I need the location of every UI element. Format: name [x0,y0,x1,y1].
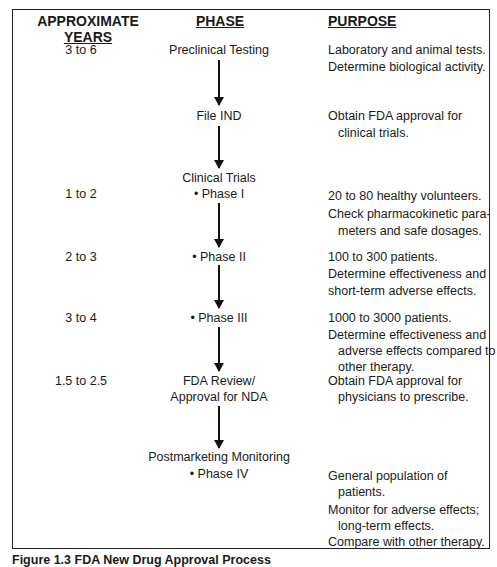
arrow-down-icon [218,126,220,168]
header-purpose: PURPOSE [328,13,396,29]
purpose-phase3-2: Determine effectiveness and [328,327,486,343]
header-years: APPROXIMATE YEARS [18,13,158,45]
purpose-phase2-3: short-term adverse effects. [328,283,476,299]
purpose-fda-1: Obtain FDA approval for [328,373,462,389]
phase-fda-review-1: FDA Review/ [119,373,319,389]
purpose-phase4-3: Monitor for adverse effects; [328,502,479,518]
header-phase: PHASE [160,13,280,29]
header-years-line1: APPROXIMATE [18,13,158,29]
purpose-phase2-1: 100 to 300 patients. [328,249,438,265]
purpose-ind-2: clinical trials. [328,125,409,141]
purpose-phase3-3: adverse effects compared to [328,343,496,359]
phase-3: • Phase III [119,310,319,326]
purpose-phase1-2: Check pharmacokinetic para- [328,206,491,222]
phase-2: • Phase II [119,249,319,265]
phase-file-ind: File IND [119,108,319,124]
purpose-preclinical-2: Determine biological activity. [328,59,485,75]
purpose-fda-2: physicians to prescribe. [328,389,469,405]
phase-4: • Phase IV [119,466,319,482]
phase-fda-review-2: Approval for NDA [119,389,319,405]
purpose-phase4-4: long-term effects. [328,518,434,534]
phase-clinical-trials: Clinical Trials [119,170,319,186]
figure-caption: Figure 1.3 FDA New Drug Approval Process [12,553,271,567]
phase-preclinical: Preclinical Testing [119,42,319,58]
purpose-phase1-3: meters and safe dosages. [328,223,482,239]
purpose-ind-1: Obtain FDA approval for [328,108,462,124]
purpose-phase1-1: 20 to 80 healthy volunteers. [328,188,482,204]
phase-1: • Phase I [119,186,319,202]
purpose-phase4-2: patients. [328,484,385,500]
arrow-down-icon [218,406,220,448]
purpose-phase4-1: General population of [328,468,448,484]
arrow-down-icon [218,203,220,247]
purpose-phase2-2: Determine effectiveness and [328,266,486,282]
purpose-preclinical-1: Laboratory and animal tests. [328,42,486,58]
purpose-phase3-1: 1000 to 3000 patients. [328,310,452,326]
arrow-down-icon [218,265,220,308]
phase-postmarketing: Postmarketing Monitoring [119,449,319,465]
purpose-phase4-5: Compare with other therapy. [328,534,485,550]
arrow-down-icon [218,327,220,371]
arrow-down-icon [218,60,220,105]
